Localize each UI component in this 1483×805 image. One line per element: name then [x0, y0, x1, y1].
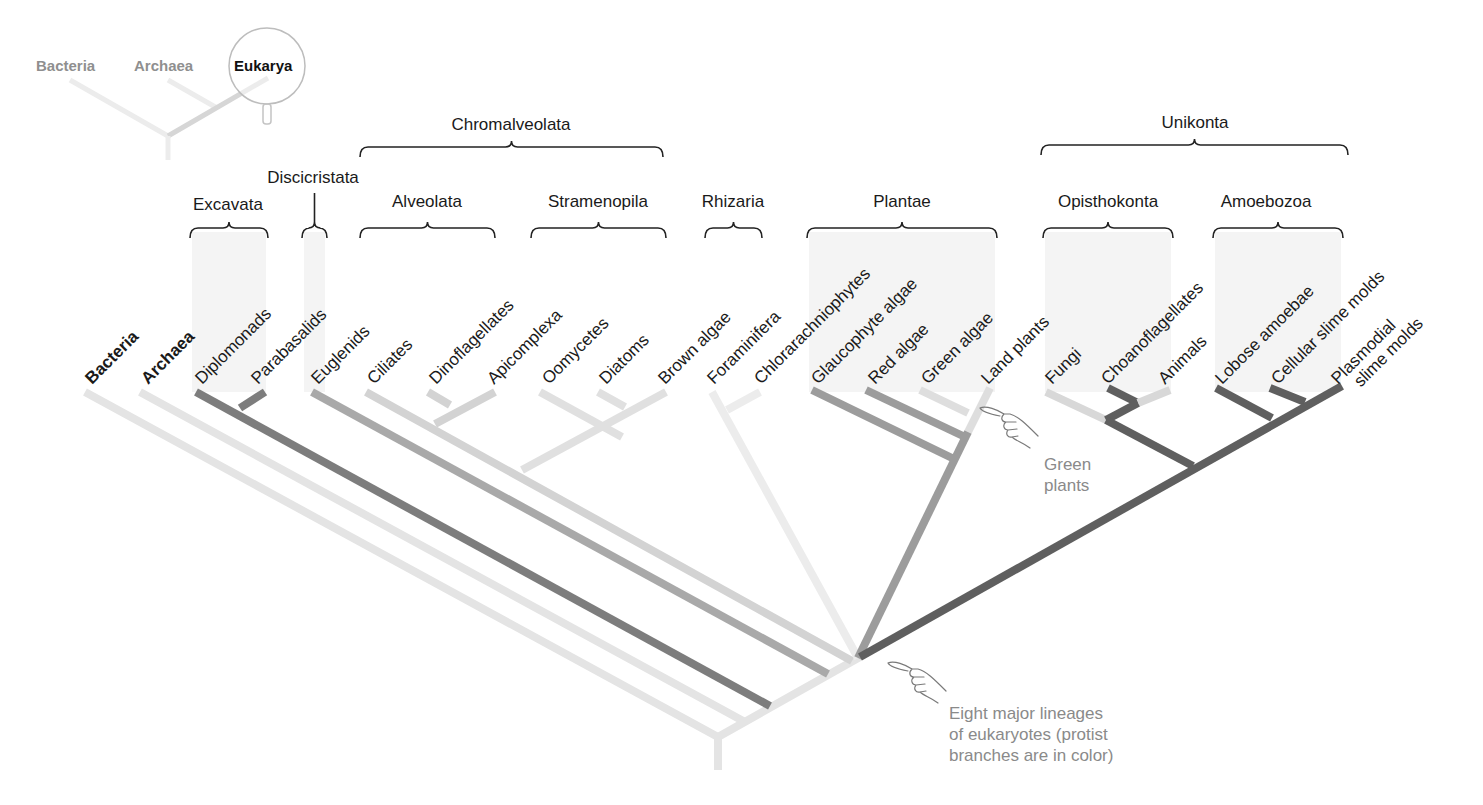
supergroup-label: Chromalveolata [451, 115, 571, 134]
group-brackets: ChromalveolataUnikontaExcavataDiscicrist… [190, 113, 1348, 238]
group-label: Discicristata [267, 168, 359, 187]
branch-diatoms [598, 392, 625, 407]
branch-parabasalids [240, 392, 265, 408]
svg-text:Archaea: Archaea [137, 327, 198, 388]
branch-red-algae [866, 390, 963, 436]
supergroup-label: Unikonta [1161, 113, 1229, 132]
branch-stramenopila [522, 392, 666, 470]
branch-excavata [196, 392, 770, 706]
branch-animal-choano-join [1106, 403, 1138, 420]
eukaryote-phylogeny-diagram: BacteriaArchaeaEukarya ChromalveolataUni… [0, 0, 1483, 805]
branch-lobose [1216, 388, 1272, 418]
branch-unikonta-stem [860, 386, 1342, 657]
inset-label-bacteria: Bacteria [36, 57, 96, 74]
green-plants-note-line: plants [1044, 476, 1089, 495]
branch-land-plants [968, 388, 990, 432]
tip-ciliates: Ciliates [363, 335, 416, 388]
tip-bacteria: Bacteria [81, 327, 142, 388]
bracket-chromalveolata [360, 141, 663, 157]
magnifier-handle-icon [263, 104, 271, 124]
branch-chlorarachniophytes [727, 392, 760, 410]
tip-archaea: Archaea [137, 327, 198, 388]
branch-green-algae [920, 390, 968, 413]
bracket-alveolata [360, 222, 495, 238]
domain-inset: BacteriaArchaeaEukarya [36, 28, 305, 160]
inset-label-archaea: Archaea [134, 57, 194, 74]
branch-fungi [1046, 392, 1106, 420]
group-label: Rhizaria [702, 192, 765, 211]
pointing-hand-icon [980, 407, 1038, 448]
group-label: Plantae [873, 192, 931, 211]
tree-branches [85, 386, 1342, 770]
branch-dinoflagellates [428, 392, 450, 405]
green-plants-note-line: Green [1044, 455, 1091, 474]
group-label: Excavata [193, 195, 263, 214]
inset-label-eukarya: Eukarya [234, 57, 293, 74]
pointing-hand-icon [888, 662, 946, 703]
group-label: Opisthokonta [1058, 192, 1159, 211]
group-label: Alveolata [392, 192, 462, 211]
eight-lineages-note-line: of eukaryotes (protist [949, 725, 1108, 744]
branch-euglenids [312, 392, 828, 674]
svg-text:Diatoms: Diatoms [595, 330, 653, 388]
svg-text:Ciliates: Ciliates [363, 335, 416, 388]
svg-text:Bacteria: Bacteria [81, 327, 142, 388]
eight-lineages-note-line: branches are in color) [949, 746, 1113, 765]
tip-diatoms: Diatoms [595, 330, 653, 388]
bracket-stramenopila [531, 222, 666, 238]
eight-lineages-note-line: Eight major lineages [949, 704, 1103, 723]
group-label: Amoebozoa [1221, 192, 1312, 211]
branch-eukarya-stem [718, 657, 860, 737]
bracket-rhizaria [705, 222, 762, 238]
group-label: Stramenopila [548, 192, 649, 211]
branch-archaea [140, 392, 745, 722]
bracket-unikonta [1041, 139, 1348, 155]
inset-branch [168, 80, 217, 108]
annotations: GreenplantsEight major lineagesof eukary… [888, 407, 1113, 765]
branch-opisthokonta [1106, 420, 1193, 466]
branch-alveolata-join [435, 392, 495, 424]
inset-branch [70, 80, 168, 136]
